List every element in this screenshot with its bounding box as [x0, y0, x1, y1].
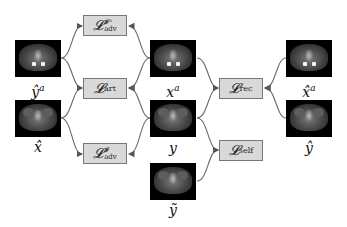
loss-art: 𝓛art: [83, 78, 127, 99]
ct-image-y-hat-a: [15, 40, 61, 77]
ct-image-x-hat: [15, 100, 61, 137]
ct-image-y: [150, 100, 196, 137]
label-y-hat-a: ŷa: [15, 81, 61, 99]
label-y-tilde: ỹ: [150, 203, 196, 217]
label-x-hat-a: x̂a: [286, 81, 332, 99]
loss-rec: 𝓛rec: [219, 78, 263, 99]
loss-adv-I: 𝓛𝓘adv: [83, 143, 127, 164]
ct-image-y-tilde: [150, 163, 196, 200]
ct-image-x-hat-a: [286, 40, 332, 77]
label-x-hat: x̂: [15, 140, 61, 154]
ct-image-x-a: [150, 40, 196, 77]
loss-adv-Ia: 𝓛𝓘ᵃadv: [83, 15, 127, 36]
ct-image-y-hat: [286, 100, 332, 137]
loss-self: 𝓛self: [219, 140, 263, 161]
label-x-a: xa: [150, 81, 196, 99]
label-y: y: [150, 141, 196, 155]
label-y-hat: ŷ: [286, 141, 332, 155]
